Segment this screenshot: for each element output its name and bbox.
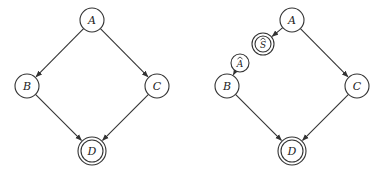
node-label: C <box>353 80 362 93</box>
node-label: A <box>287 14 296 27</box>
edge-a-to-b <box>36 29 83 77</box>
node-c: C <box>145 74 169 98</box>
edge-a-to-c <box>100 29 147 77</box>
node-label: B <box>22 80 31 93</box>
node-label: D <box>87 145 97 158</box>
edge-b-to-d <box>35 94 81 140</box>
node-label: A <box>236 59 244 69</box>
diagram-right: ASABCD <box>215 8 369 165</box>
edge-a_hat-to-b <box>233 71 235 75</box>
node-b: B <box>15 74 39 98</box>
edge-a-to-c <box>300 29 347 77</box>
causal-diagram-canvas: ABCD ASABCD <box>0 0 386 176</box>
edge-a-to-s_hat <box>272 28 283 37</box>
node-d: D <box>78 137 106 165</box>
node-label: D <box>287 145 297 158</box>
edge-c-to-d <box>103 94 149 140</box>
node-a: A <box>280 8 304 32</box>
edge-b-to-d <box>235 94 281 140</box>
node-label: B <box>222 80 231 93</box>
node-label: A <box>87 14 96 27</box>
node-label: C <box>153 80 162 93</box>
diagram-left: ABCD <box>15 8 169 165</box>
node-a-hat: A <box>231 54 249 72</box>
node-label: S <box>260 40 266 50</box>
edge-c-to-d <box>303 94 349 140</box>
node-b: B <box>215 74 239 98</box>
node-d: D <box>278 137 306 165</box>
node-a: A <box>80 8 104 32</box>
node-c: C <box>345 74 369 98</box>
node-s-hat: S <box>252 33 274 55</box>
